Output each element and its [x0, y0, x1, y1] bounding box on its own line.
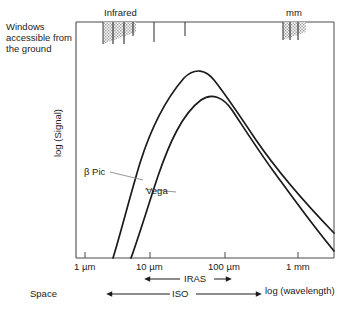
- curve-label-beta-pic: β Pic: [84, 166, 105, 177]
- windows-accessible-note: Windows accessible from the ground: [6, 21, 74, 55]
- figure-root: Windows accessible from the ground log (…: [0, 0, 350, 310]
- x-tick-label-10um: 10 µm: [136, 261, 163, 272]
- x-tick-label-1mm: 1 mm: [286, 261, 310, 272]
- ground-windows-group: [103, 22, 306, 44]
- band-label-infrared: Infrared: [104, 7, 137, 18]
- mission-label-iras: IRAS: [184, 273, 206, 284]
- window-band-infrared: [103, 22, 136, 44]
- axis-frame: [76, 22, 334, 258]
- curve-beta-pic: [113, 71, 334, 258]
- mission-label-iso: ISO: [172, 288, 188, 299]
- x-tick-label-100um: 100 µm: [208, 261, 240, 272]
- curve-label-vega: Vega: [146, 185, 168, 196]
- x-axis-ticks: [85, 252, 298, 258]
- y-axis-label: log (Signal): [52, 109, 63, 157]
- curve-vega: [131, 96, 334, 258]
- band-label-mm: mm: [286, 7, 302, 18]
- window-ticks-isolated: [154, 22, 185, 42]
- x-tick-label-1um: 1 µm: [74, 261, 95, 272]
- space-label: Space: [30, 288, 57, 299]
- window-band-mm: [283, 22, 306, 40]
- x-axis-label: log (wavelength): [265, 285, 335, 296]
